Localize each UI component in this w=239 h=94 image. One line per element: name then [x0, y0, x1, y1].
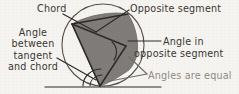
- label-angles-are-equal: Angles are equal: [148, 70, 232, 81]
- label-angle-between-line-2: between: [2, 38, 64, 49]
- label-angle-between-line-1: Angle: [2, 27, 64, 38]
- label-angle-in: Angle in: [163, 36, 204, 47]
- label-chord: Chord: [37, 3, 67, 14]
- label-angle-in-opposite-segment: opposite segment: [134, 48, 224, 59]
- circle-theorem-figure: Chord Opposite segment Angle in opposite…: [0, 0, 239, 94]
- label-opposite-segment: Opposite segment: [130, 3, 221, 14]
- label-angle-between-tangent-and-chord: Angle between tangent and chord: [2, 27, 64, 72]
- label-angle-between-line-3: tangent: [2, 50, 64, 61]
- label-angle-between-line-4: and chord: [2, 61, 64, 72]
